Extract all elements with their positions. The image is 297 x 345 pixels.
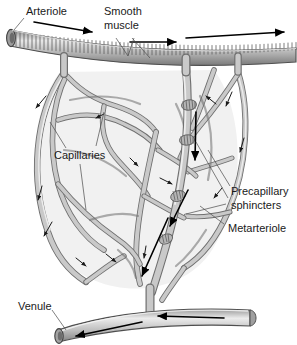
arrow-metarteriole-1 [195,112,196,160]
label-capillaries: Capillaries [54,149,106,161]
label-precapillary-line2: sphincters [231,199,282,211]
microcirculation-diagram: Arteriole Smooth muscle Capillaries Prec… [0,0,297,345]
label-smooth-muscle-line1: Smooth [104,5,142,17]
label-venule: Venule [18,300,52,312]
label-precapillary-line1: Precapillary [231,185,289,197]
label-arteriole: Arteriole [26,5,67,17]
label-metarteriole: Metarteriole [228,222,286,234]
label-smooth-muscle-line2: muscle [104,19,139,31]
venule-lumen [58,331,62,340]
arteriole-lumen [10,33,15,44]
